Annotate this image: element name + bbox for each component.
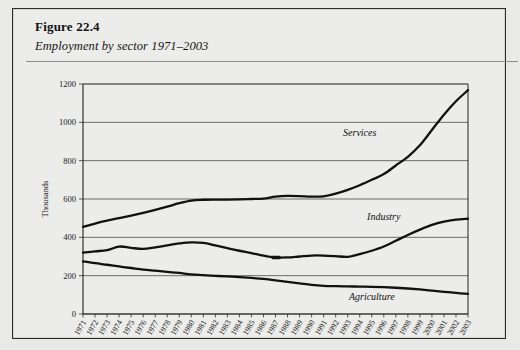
series-label-industry: Industry [366,211,401,222]
series-label-agriculture: Agriculture [348,291,395,302]
y-axis-ticks: 020040060080010001200 [59,79,83,319]
chart-canvas: 020040060080010001200 197119721973197419… [26,62,518,347]
y-tick-label: 600 [63,194,76,204]
y-tick-label: 400 [63,232,76,242]
y-tick-label: 1200 [59,79,76,89]
y-tick-label: 800 [63,156,76,166]
figure-caption: Employment by sector 1971–2003 [35,39,208,54]
figure-number: Figure 22.4 [35,19,100,35]
series-lines [83,90,468,294]
figure-frame: Figure 22.4 Employment by sector 1971–20… [12,8,506,339]
line-chart: 020040060080010001200 197119721973197419… [26,62,518,347]
x-axis-ticks: 1971197219731974197519761977197819791980… [72,314,473,337]
screenshot-page: Figure 22.4 Employment by sector 1971–20… [0,0,520,350]
y-tick-label: 0 [72,309,76,319]
series-line-services [83,90,468,227]
y-tick-label: 1000 [59,117,76,127]
series-label-services: Services [343,127,376,138]
x-tick-label: 2003 [457,319,473,337]
series-line-industry [83,219,468,258]
ink-blob-artifact [272,256,281,259]
y-axis-title: Thousands [40,181,50,218]
y-tick-label: 200 [63,271,76,281]
series-line-agriculture [83,261,468,294]
